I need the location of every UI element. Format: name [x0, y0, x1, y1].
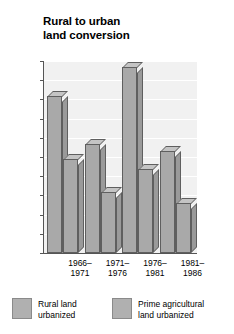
legend-label-prime: Prime agricultural land urbanized: [138, 299, 204, 320]
chart-title-line-2: land conversion: [43, 28, 213, 42]
chart-title: Rural to urban land conversion: [43, 14, 213, 42]
bar: [85, 144, 100, 253]
legend-label-rural: Rural land urbanized: [38, 299, 77, 320]
gridline: [44, 61, 197, 62]
y-tick-mark: [40, 119, 43, 120]
y-tick-mark: [40, 80, 43, 81]
y-tick-mark: [40, 138, 43, 139]
bar-side-face: [153, 169, 159, 253]
gridline: [44, 80, 197, 81]
bar-front-face: [122, 67, 137, 253]
bar: [47, 96, 62, 253]
bar-side-face: [191, 203, 197, 253]
bar: [101, 192, 116, 253]
bar-front-face: [176, 203, 191, 253]
bar-side-face: [116, 192, 122, 253]
bar-side-face: [78, 159, 84, 253]
y-tick-mark: [40, 253, 43, 254]
y-tick-mark: [40, 157, 43, 158]
bar-front-face: [85, 144, 100, 253]
y-tick-mark: [40, 176, 43, 177]
x-axis-label-line: 1981–: [169, 258, 217, 268]
y-tick-mark: [40, 99, 43, 100]
bar: [176, 203, 191, 253]
legend-label-prime-line-2: land urbanized: [138, 310, 204, 321]
bar: [138, 169, 153, 253]
chart-title-line-1: Rural to urban: [43, 14, 213, 28]
y-tick-mark: [40, 61, 43, 62]
bar-front-face: [160, 151, 175, 253]
bar-front-face: [63, 159, 78, 253]
y-tick-mark: [40, 215, 43, 216]
x-axis-label-line: 1986: [169, 268, 217, 278]
legend-label-rural-line-1: Rural land: [38, 299, 77, 310]
y-tick-mark: [40, 195, 43, 196]
legend-swatch-prime: [112, 298, 132, 319]
y-axis-line: [43, 61, 44, 253]
legend-label-prime-line-1: Prime agricultural: [138, 299, 204, 310]
bar-front-face: [47, 96, 62, 253]
bar-chart-figure: Rural to urban land conversion 010203040…: [0, 0, 234, 334]
bar: [122, 67, 137, 253]
y-tick-mark: [40, 234, 43, 235]
bar: [160, 151, 175, 253]
bar: [63, 159, 78, 253]
legend-label-rural-line-2: urbanized: [38, 310, 77, 321]
bar-front-face: [101, 192, 116, 253]
x-axis-line: [43, 253, 197, 254]
bar-front-face: [138, 169, 153, 253]
x-axis-label: 1981–1986: [169, 258, 217, 278]
plot-area: 0102030405060708090100 Thousands of hect…: [44, 61, 197, 253]
legend-swatch-rural: [12, 298, 32, 319]
